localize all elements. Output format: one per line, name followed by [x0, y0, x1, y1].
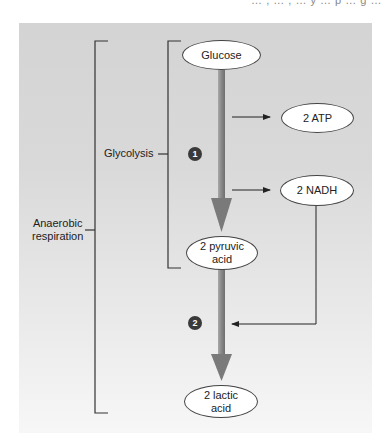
node-atp: 2 ATP [281, 103, 354, 133]
step-2-badge: 2 [188, 316, 202, 330]
glycolysis-main-arrow [211, 70, 232, 232]
node-nadh: 2 NADH [280, 175, 354, 206]
anaerobic-label-line2: respiration [32, 230, 83, 243]
node-pyruvic-acid: 2 pyruvic acid [186, 236, 258, 270]
node-atp-label: 2 ATP [303, 112, 332, 125]
node-lactic-line1: 2 lactic [204, 389, 238, 402]
node-glucose-label: Glucose [201, 49, 241, 62]
glycolysis-label: Glycolysis [104, 147, 154, 160]
node-nadh-label: 2 NADH [297, 184, 337, 197]
glycolysis-bracket [158, 41, 181, 268]
step-1-badge: 1 [188, 147, 202, 161]
node-lactic-line2: acid [204, 402, 238, 415]
outer-bracket [85, 41, 108, 413]
node-lactic-acid: 2 lactic acid [184, 385, 258, 418]
anaerobic-respiration-label: Anaerobic respiration [32, 217, 83, 243]
anaerobic-label-line1: Anaerobic [32, 217, 83, 230]
node-pyruvic-line2: acid [200, 253, 244, 266]
node-glucose: Glucose [182, 40, 261, 70]
fermentation-main-arrow [211, 266, 232, 381]
node-pyruvic-line1: 2 pyruvic [200, 240, 244, 253]
